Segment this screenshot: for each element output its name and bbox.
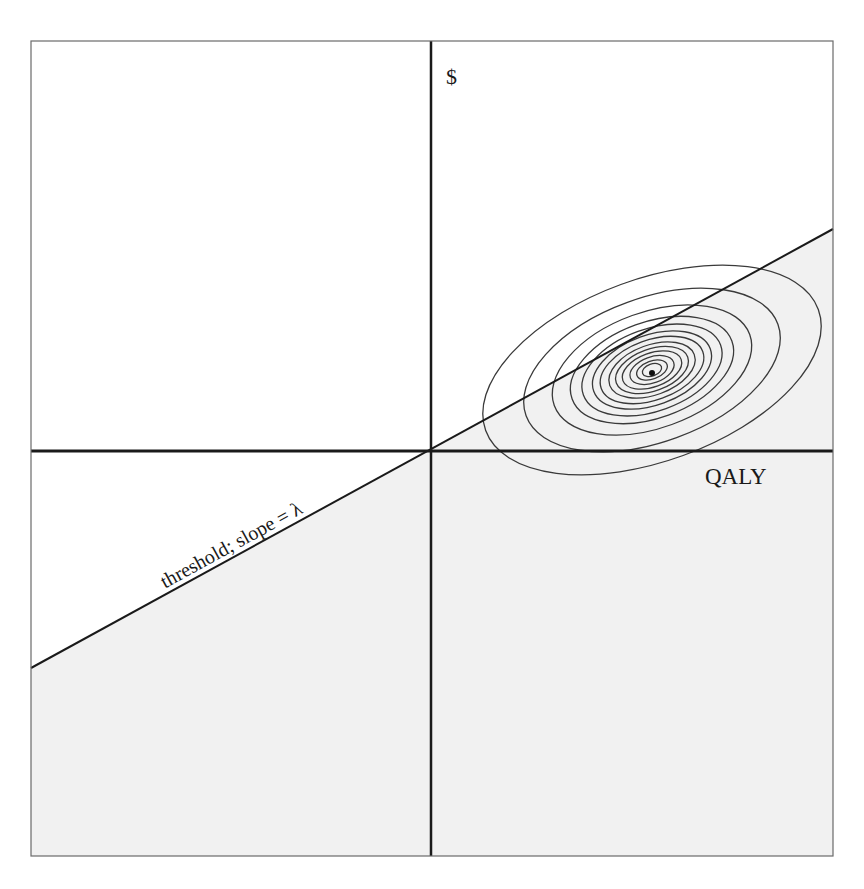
mean-point-marker — [649, 370, 655, 376]
x-axis-label: QALY — [705, 464, 767, 489]
cost-effectiveness-plane-figure: $ QALY threshold; slope = λ — [0, 0, 864, 889]
cost-effectiveness-plane: $ QALY threshold; slope = λ — [0, 0, 864, 889]
y-axis-label: $ — [446, 64, 457, 89]
